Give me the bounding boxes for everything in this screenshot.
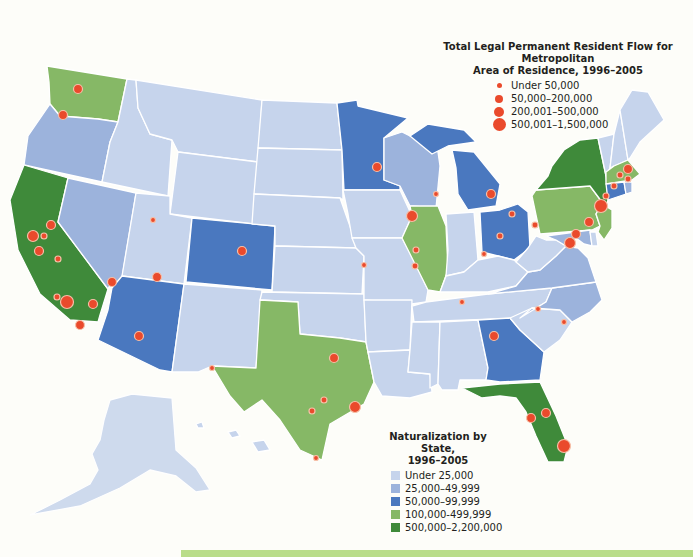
state-pennsylvania (532, 186, 602, 234)
flow-legend-item: 50,000–200,000 (492, 92, 690, 105)
swatch-icon (391, 523, 400, 532)
flow-legend-title-line1: Total Legal Permanent Resident Flow for … (426, 41, 690, 65)
flow-legend-item: 500,001–1,500,000 (492, 118, 690, 131)
nat-legend-item: 500,000–2,200,000 (391, 521, 503, 534)
swatch-icon (391, 497, 400, 506)
nat-legend-title-line1: Naturalization by State, (373, 431, 503, 455)
nat-legend-item: 50,000–99,999 (391, 495, 503, 508)
swatch-icon (391, 484, 400, 493)
flow-legend: Total Legal Permanent Resident Flow for … (426, 41, 690, 131)
state-south-dakota (254, 148, 343, 200)
swatch-icon (391, 510, 400, 519)
state-hawaii (196, 422, 270, 452)
state-wyoming (170, 152, 258, 224)
state-alaska (30, 394, 210, 515)
nat-legend-title-line2: 1996–2005 (373, 455, 503, 467)
state-michigan (452, 150, 500, 210)
flow-legend-item: 200,001–500,000 (492, 105, 690, 118)
flow-legend-title-line2: Area of Residence, 1996–2005 (426, 65, 690, 77)
swatch-icon (391, 471, 400, 480)
nat-legend-item: Under 25,000 (391, 469, 503, 482)
state-colorado (186, 218, 275, 290)
state-arkansas (364, 300, 412, 352)
flow-legend-item: Under 50,000 (492, 79, 690, 92)
state-rhode-island (624, 182, 632, 194)
state-new-mexico (172, 284, 262, 372)
dot-medium-icon (495, 95, 503, 103)
state-north-dakota (258, 100, 342, 150)
state-kansas (272, 246, 364, 294)
state-arizona (98, 276, 184, 372)
state-ohio (480, 204, 530, 260)
state-delaware (590, 232, 598, 246)
dot-large-icon (494, 107, 504, 117)
dot-small-icon (497, 83, 502, 88)
dot-xlarge-icon (493, 118, 506, 131)
nat-legend-item: 100,000-499,999 (391, 508, 503, 521)
nat-legend-item: 25,000–49,999 (391, 482, 503, 495)
bottom-accent-bar (181, 550, 693, 557)
naturalization-legend: Naturalization by State, 1996–2005 Under… (373, 431, 503, 534)
state-iowa (343, 190, 412, 238)
